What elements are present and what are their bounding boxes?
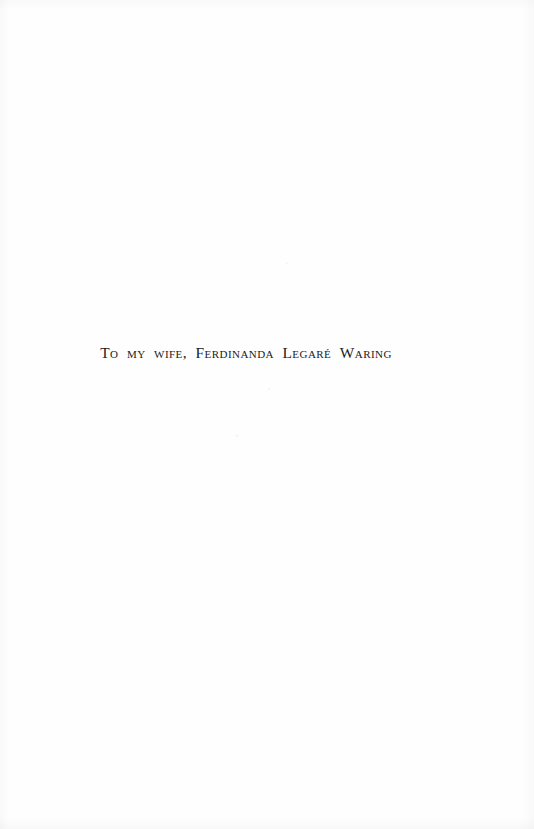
dedication-word: Waring (340, 344, 392, 361)
scan-speck (268, 388, 270, 390)
dedication-text: To my wife, Ferdinanda Legaré Waring (100, 343, 392, 363)
scan-edge-shading (0, 0, 534, 829)
dedication-block: To my wife, Ferdinanda Legaré Waring (0, 343, 534, 363)
scan-speck (286, 262, 288, 264)
dedication-word-body: my (127, 344, 146, 361)
dedication-word-initial: T (100, 344, 110, 361)
dedication-word-body: o (110, 344, 118, 361)
dedication-word-body: egaré (292, 344, 331, 361)
dedication-word-body: erdinanda (205, 344, 274, 361)
scan-speck (236, 434, 238, 437)
dedication-word-initial: L (282, 344, 292, 361)
dedication-page: To my wife, Ferdinanda Legaré Waring (0, 0, 534, 829)
dedication-word: wife, (154, 344, 187, 361)
dedication-word: To (100, 344, 118, 361)
dedication-word: my (127, 344, 146, 361)
dedication-word: Legaré (282, 344, 331, 361)
dedication-word-body: wife, (154, 344, 187, 361)
dedication-word: Ferdinanda (196, 344, 274, 361)
dedication-word-body: aring (355, 344, 392, 361)
dedication-word-initial: F (196, 344, 205, 361)
dedication-word-initial: W (340, 344, 355, 361)
